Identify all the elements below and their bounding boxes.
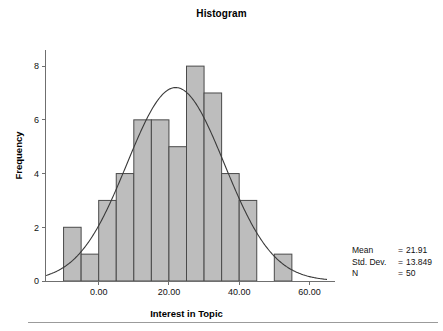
histogram-chart: Histogram Frequency 0.0020.0040.0060.00 … [0, 0, 443, 331]
y-tick-label: 6 [34, 115, 39, 125]
y-tick-label: 8 [34, 61, 39, 71]
x-axis-ticks: 0.0020.0040.0060.00 [90, 281, 321, 297]
histogram-bar [204, 93, 222, 281]
histogram-bar [81, 254, 99, 281]
histogram-bar [99, 200, 117, 281]
y-tick-label: 4 [34, 169, 39, 179]
histogram-bar [151, 120, 169, 281]
plot-area: 0.0020.0040.0060.00 02468 Interest in To… [0, 0, 443, 331]
histogram-bar [134, 120, 152, 281]
histogram-bar [187, 66, 205, 281]
x-tick-label: 40.00 [228, 287, 251, 297]
x-tick-label: 0.00 [90, 287, 108, 297]
statistic-row: Mean=21.91 [352, 245, 432, 257]
x-axis-title: Interest in Topic [150, 308, 223, 319]
statistic-row: Std. Dev.=13.849 [352, 257, 432, 269]
y-axis-ticks: 02468 [34, 61, 46, 286]
statistic-label: Std. Dev. [352, 257, 398, 269]
statistic-label: Mean [352, 245, 398, 257]
histogram-bar [239, 200, 257, 281]
statistic-value: 50 [406, 268, 415, 280]
bars-group [64, 66, 292, 281]
histogram-bar [222, 174, 240, 281]
statistic-row: N=50 [352, 268, 432, 280]
x-tick-label: 60.00 [298, 287, 321, 297]
statistic-equals: = [398, 268, 406, 280]
histogram-bar [116, 174, 134, 281]
bottom-divider [28, 322, 438, 323]
statistic-value: 13.849 [406, 257, 432, 269]
histogram-bar [169, 147, 187, 281]
statistic-equals: = [398, 257, 406, 269]
y-tick-label: 0 [34, 276, 39, 286]
statistic-label: N [352, 268, 398, 280]
statistics-annotation: Mean=21.91Std. Dev.=13.849N=50 [352, 245, 432, 280]
y-tick-label: 2 [34, 223, 39, 233]
statistic-value: 21.91 [406, 245, 427, 257]
x-tick-label: 20.00 [158, 287, 181, 297]
statistic-equals: = [398, 245, 406, 257]
